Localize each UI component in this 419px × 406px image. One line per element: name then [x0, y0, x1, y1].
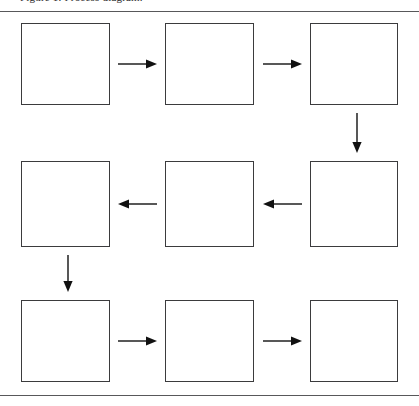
flow-arrow-down [63, 255, 72, 292]
flow-arrow-right [118, 59, 157, 68]
process-box[interactable] [310, 23, 398, 105]
flow-arrow-right [263, 59, 302, 68]
flow-arrow-right [263, 336, 302, 345]
arrow-head [291, 336, 302, 345]
process-box[interactable] [21, 23, 110, 105]
clipped-caption-text: Figure 1. Process diagram. [20, 0, 400, 5]
process-box[interactable] [165, 300, 254, 382]
arrow-head [146, 59, 157, 68]
flow-arrow-left [263, 199, 302, 208]
arrow-head [146, 336, 157, 345]
process-box[interactable] [165, 161, 254, 247]
process-box[interactable] [310, 300, 398, 382]
arrow-head [352, 142, 361, 153]
flow-arrow-right [118, 336, 157, 345]
arrow-head [263, 199, 274, 208]
process-box[interactable] [310, 161, 398, 247]
figure-canvas: Figure 1. Process diagram. [0, 0, 419, 406]
flow-arrow-down [352, 113, 361, 153]
flow-arrow-left [118, 199, 157, 208]
top-horizontal-rule [0, 11, 419, 12]
process-box[interactable] [21, 161, 110, 247]
arrow-head [118, 199, 129, 208]
arrow-head [291, 59, 302, 68]
process-box[interactable] [165, 23, 254, 105]
bottom-horizontal-rule [0, 395, 419, 396]
process-box[interactable] [21, 300, 110, 382]
arrow-head [63, 281, 72, 292]
